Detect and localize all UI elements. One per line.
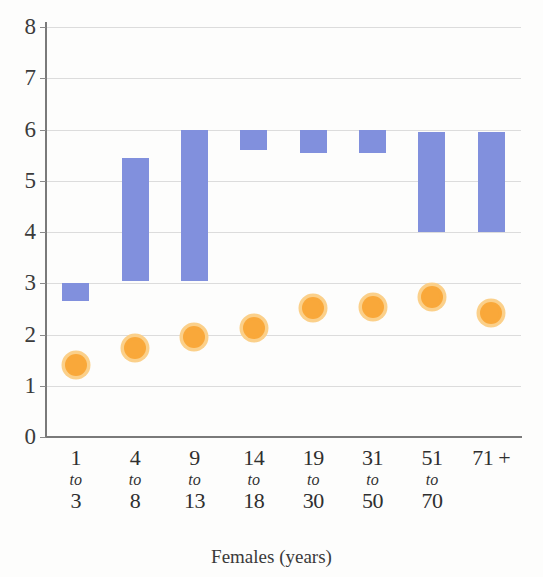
x-category-label: 31to50 [343, 446, 403, 513]
range-bar [478, 132, 505, 232]
x-category-label: 1to3 [46, 446, 106, 513]
y-tick-label: 4 [6, 220, 36, 243]
y-tick-mark [40, 78, 46, 79]
data-point-marker [421, 286, 443, 308]
y-tick-mark [40, 27, 46, 28]
x-label-lower: 31 [343, 446, 403, 470]
y-tick-mark [40, 386, 46, 387]
data-point-marker [183, 326, 205, 348]
range-bar [240, 130, 267, 151]
x-label-upper: 13 [164, 489, 224, 513]
y-tick-label: 6 [6, 118, 36, 141]
x-label-connector: to [343, 471, 403, 488]
x-label-connector: to [105, 471, 165, 488]
y-tick-label: 8 [6, 15, 36, 38]
x-label-upper: 3 [46, 489, 106, 513]
y-tick-label: 7 [6, 66, 36, 89]
x-label-connector: to [224, 471, 284, 488]
y-tick-label: 2 [6, 323, 36, 346]
data-point-marker [362, 296, 384, 318]
range-bar [300, 130, 327, 153]
y-tick-label: 3 [6, 271, 36, 294]
gridline [46, 386, 521, 387]
y-tick-label: 1 [6, 374, 36, 397]
x-label-upper: 8 [105, 489, 165, 513]
data-point-marker [65, 354, 87, 376]
plot-area [46, 20, 521, 437]
data-point-marker [480, 302, 502, 324]
y-tick-mark [40, 130, 46, 131]
x-label-lower: 51 [402, 446, 462, 470]
x-label-connector: to [283, 471, 343, 488]
range-bar [359, 130, 386, 153]
gridline [46, 181, 521, 182]
y-tick-mark [40, 437, 46, 438]
y-tick-mark [40, 181, 46, 182]
x-label-lower: 14 [224, 446, 284, 470]
x-category-label: 19to30 [283, 446, 343, 513]
x-axis-title: Females (years) [0, 546, 543, 568]
x-label-upper: 70 [402, 489, 462, 513]
x-label-connector: to [46, 471, 106, 488]
range-bar [62, 283, 89, 301]
gridline [46, 130, 521, 131]
range-bar [122, 158, 149, 281]
y-tick-mark [40, 283, 46, 284]
data-point-marker [243, 317, 265, 339]
y-tick-label: 5 [6, 169, 36, 192]
x-label-lower: 71 + [461, 446, 521, 470]
gridline [46, 232, 521, 233]
x-category-label: 9to13 [164, 446, 224, 513]
gridline [46, 78, 521, 79]
x-label-upper: 18 [224, 489, 284, 513]
x-label-upper: 50 [343, 489, 403, 513]
y-tick-label: 0 [6, 425, 36, 448]
x-label-lower: 19 [283, 446, 343, 470]
x-label-lower: 1 [46, 446, 106, 470]
x-label-upper: 30 [283, 489, 343, 513]
y-tick-mark [40, 335, 46, 336]
y-tick-mark [40, 232, 46, 233]
x-label-connector: to [164, 471, 224, 488]
x-label-connector: to [402, 471, 462, 488]
data-point-marker [124, 337, 146, 359]
range-bar [418, 132, 445, 232]
x-category-label: 4to8 [105, 446, 165, 513]
x-category-label: 14to18 [224, 446, 284, 513]
y-axis-line [45, 22, 47, 438]
gridline [46, 283, 521, 284]
gridline [46, 27, 521, 28]
x-axis-line [45, 436, 522, 438]
x-label-lower: 4 [105, 446, 165, 470]
data-point-marker [302, 297, 324, 319]
x-category-label: 51to70 [402, 446, 462, 513]
x-label-lower: 9 [164, 446, 224, 470]
x-category-label: 71 + [461, 446, 521, 470]
range-bar [181, 130, 208, 281]
gridline [46, 335, 521, 336]
chart-container: 012345678 1to34to89to1314to1819to3031to5… [0, 0, 543, 577]
